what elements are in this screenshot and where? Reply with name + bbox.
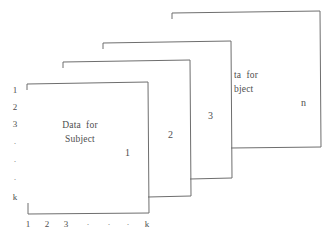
panel-subject-2-number: 2	[168, 130, 180, 141]
panel-subject-1-caption-line1: Data for	[45, 119, 115, 133]
column-label-1: 1	[22, 220, 34, 229]
row-label-dot-3: ·	[8, 175, 22, 184]
panel-subject-n-number: n	[301, 98, 313, 109]
column-label-k: k	[141, 220, 153, 229]
panel-subject-1-number: 1	[125, 148, 137, 159]
data-stack-diagram: 1 2 3 · · · k 1 2 3 · · · k Data for Sub…	[0, 0, 334, 242]
panel-subject-n-caption-line1: ta for	[234, 69, 294, 83]
row-label-3: 3	[8, 120, 22, 129]
column-label-2: 2	[41, 220, 53, 229]
row-label-1: 1	[8, 86, 22, 95]
column-label-3: 3	[60, 220, 72, 229]
column-label-dot-2: ·	[103, 220, 115, 229]
row-label-dot-2: ·	[8, 157, 22, 166]
row-label-dot-1: ·	[8, 139, 22, 148]
panel-subject-1-caption-line2: Subject	[45, 133, 115, 147]
row-label-2: 2	[8, 103, 22, 112]
column-label-dot-1: ·	[82, 220, 94, 229]
row-label-k: k	[8, 193, 22, 202]
column-label-dot-3: ·	[122, 220, 134, 229]
panel-subject-3-number: 3	[208, 111, 220, 122]
panel-subject-n-caption-line2: bject	[234, 83, 294, 97]
